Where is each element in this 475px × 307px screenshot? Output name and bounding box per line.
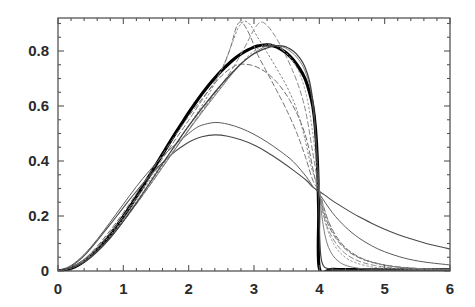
plot-canvas — [0, 0, 475, 307]
y-tick-label: 0.8 — [5, 42, 49, 59]
chart-figure: 0.80.60.40.20 0123456 — [0, 0, 475, 307]
y-tick-label: 0.2 — [5, 207, 49, 224]
x-tick-label: 0 — [38, 280, 78, 297]
x-tick-label: 4 — [299, 280, 339, 297]
y-tick-label: 0 — [5, 262, 49, 279]
x-tick-label: 3 — [234, 280, 274, 297]
y-tick-label: 0.6 — [5, 97, 49, 114]
x-tick-label: 5 — [365, 280, 405, 297]
x-tick-label: 6 — [430, 280, 470, 297]
x-tick-label: 2 — [169, 280, 209, 297]
figure-background — [0, 0, 475, 307]
y-tick-label: 0.4 — [5, 152, 49, 169]
x-tick-label: 1 — [103, 280, 143, 297]
